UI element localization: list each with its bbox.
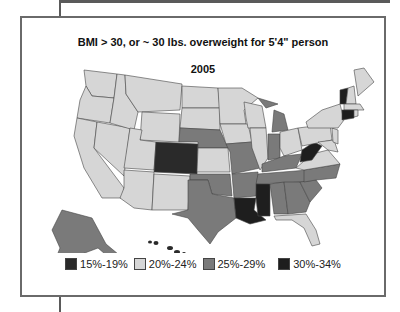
state-wyoming bbox=[140, 112, 180, 142]
state-rhode-island bbox=[354, 110, 358, 117]
state-hawaii bbox=[148, 241, 194, 254]
state-colorado bbox=[154, 142, 198, 174]
us-map bbox=[22, 18, 384, 253]
legend-swatch-20-24 bbox=[134, 258, 146, 270]
state-massachusetts bbox=[344, 104, 364, 110]
state-alaska bbox=[42, 210, 118, 253]
state-new-york bbox=[306, 104, 344, 128]
state-iowa bbox=[220, 124, 252, 144]
legend-item-20-24: 20%-24% bbox=[134, 258, 197, 270]
state-wisconsin bbox=[244, 102, 266, 128]
state-florida bbox=[274, 214, 320, 246]
state-maine bbox=[354, 68, 374, 96]
state-south-dakota bbox=[180, 108, 220, 130]
chart-panel: BMI > 30, or ~ 30 lbs. overweight for 5'… bbox=[20, 16, 386, 297]
state-new-mexico bbox=[152, 174, 190, 210]
legend-swatch-25-29 bbox=[203, 258, 215, 270]
state-kansas bbox=[197, 148, 230, 172]
legend: 15%-19% 20%-24% 25%-29% 30%-34% bbox=[22, 258, 384, 270]
legend-swatch-15-19 bbox=[65, 258, 77, 270]
state-arizona bbox=[120, 170, 154, 210]
state-indiana bbox=[268, 134, 280, 160]
state-new-jersey bbox=[332, 128, 338, 144]
state-arkansas bbox=[232, 172, 258, 198]
legend-label-15-19: 15%-19% bbox=[80, 258, 128, 270]
legend-label-30-34: 30%-34% bbox=[293, 258, 341, 270]
legend-swatch-30-34 bbox=[278, 258, 290, 270]
legend-label-25-29: 25%-29% bbox=[218, 258, 266, 270]
legend-item-25-29: 25%-29% bbox=[203, 258, 266, 270]
state-mississippi bbox=[256, 184, 270, 216]
legend-label-20-24: 20%-24% bbox=[149, 258, 197, 270]
background-frame-top bbox=[60, 0, 390, 3]
legend-item-30-34: 30%-34% bbox=[278, 258, 341, 270]
state-connecticut bbox=[342, 110, 354, 120]
state-north-dakota bbox=[182, 86, 220, 108]
legend-item-15-19: 15%-19% bbox=[65, 258, 128, 270]
